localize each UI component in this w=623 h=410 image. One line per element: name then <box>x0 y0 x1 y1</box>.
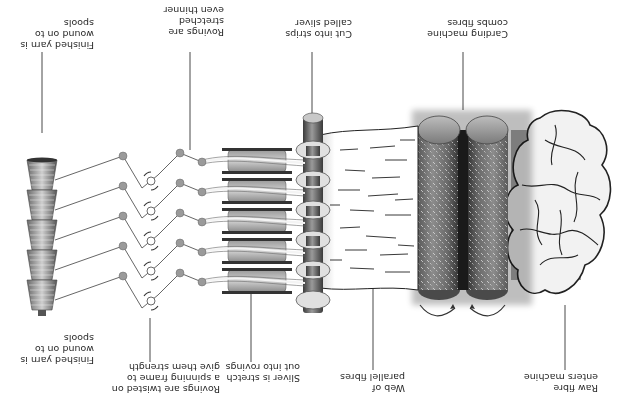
label-raw-fibre: Raw fibre enters machine <box>518 372 598 394</box>
drafting-rollers-icon <box>202 148 305 294</box>
label-spools-bottom: Finished yarn is wound on to spools <box>4 333 94 366</box>
label-sliver: Cut into strips called sliver <box>272 18 352 40</box>
label-spinning: Rovings are twisted on a spinning frame … <box>100 362 220 395</box>
label-rovings-stretch: Sliver is stretch out into rovings <box>210 362 300 384</box>
carding-rollers-icon <box>412 110 532 316</box>
spinning-frame-icon <box>55 149 206 310</box>
label-rovings-thinner: Rovings are stretched even thinner <box>154 5 224 38</box>
yarn-spool-icon <box>27 158 57 317</box>
fibre-web-icon <box>320 126 418 290</box>
label-carding: Carding machine combs fibres <box>418 18 508 40</box>
textile-process-diagram: Finished yarn is wound on to spools Rovi… <box>0 0 623 410</box>
label-spools-top: Finished yarn is wound on to spools <box>4 18 94 51</box>
label-web: Web of parallel fibres <box>335 372 405 394</box>
